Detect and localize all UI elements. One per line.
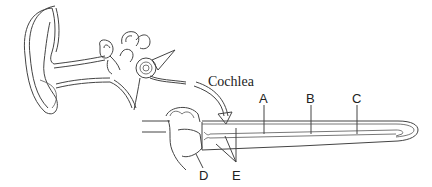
label-d: D [199, 168, 208, 183]
label-e: E [232, 168, 241, 183]
ear-canal [54, 56, 136, 108]
label-b: B [306, 91, 315, 106]
label-a: A [259, 91, 268, 106]
ear-diagram: Cochlea A B C D E [0, 0, 432, 187]
inner-ear [120, 32, 186, 110]
outer-ear [24, 6, 59, 114]
cochlea-label: Cochlea [208, 74, 255, 89]
label-c: C [352, 91, 361, 106]
uncoiled-cochlea [142, 107, 418, 170]
ossicles [100, 40, 120, 74]
